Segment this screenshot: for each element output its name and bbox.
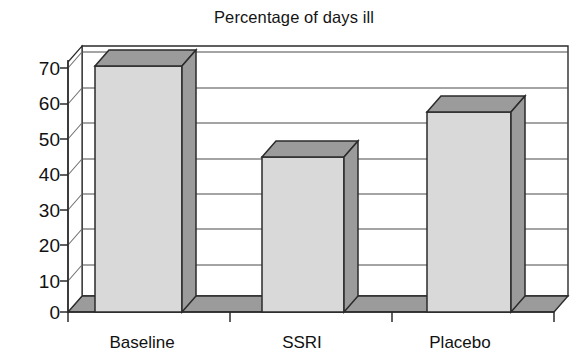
bar-baseline-front <box>95 66 182 312</box>
y-axis-ticks <box>60 68 68 312</box>
bar-placebo-side <box>511 96 525 312</box>
bar-ssri-top <box>262 141 358 157</box>
chart-canvas <box>0 0 588 362</box>
y-axis <box>60 60 68 313</box>
x-axis-ticks <box>68 312 554 322</box>
bar-ssri-front <box>262 157 344 312</box>
bar-chart: Percentage of days ill 70 60 50 40 30 20… <box>0 0 588 362</box>
bar-baseline[interactable] <box>95 50 196 312</box>
bar-placebo-top <box>427 96 525 112</box>
plot-left-wall <box>68 46 82 312</box>
bar-baseline-top <box>95 50 196 66</box>
bar-ssri[interactable] <box>262 141 358 312</box>
bar-baseline-side <box>182 50 196 312</box>
bar-placebo[interactable] <box>427 96 525 312</box>
x-axis <box>68 312 554 322</box>
bar-ssri-side <box>344 141 358 312</box>
bar-placebo-front <box>427 112 511 312</box>
